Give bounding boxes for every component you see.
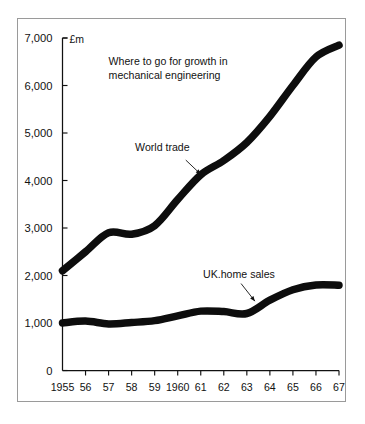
x-tick-label: 61	[195, 381, 207, 393]
y-tick-label: 3,000	[25, 222, 53, 234]
y-tick-label: 7,000	[25, 32, 53, 44]
x-tick-label: 1955	[51, 381, 75, 393]
series-line-2	[63, 285, 340, 324]
x-tick-label: 63	[241, 381, 253, 393]
series-label-2: UK.home sales	[203, 268, 275, 280]
y-tick-label: 0	[46, 365, 52, 377]
series-label-1: World trade	[135, 141, 190, 153]
y-tick-label: 4,000	[25, 175, 53, 187]
x-tick-label: 57	[103, 381, 115, 393]
line-chart: 01,0002,0003,0004,0005,0006,0007,000 195…	[0, 0, 365, 424]
series-lines	[63, 45, 340, 324]
x-axis-tick-labels: 195556575859196061626364656667	[51, 381, 345, 393]
x-tick-label: 64	[264, 381, 276, 393]
chart-title-line-1: Where to go for growth in	[109, 55, 228, 67]
x-tick-label: 1960	[166, 381, 190, 393]
x-tick-label: 59	[149, 381, 161, 393]
y-tick-label: 6,000	[25, 80, 53, 92]
x-tick-label: 65	[287, 381, 299, 393]
y-axis-unit-label: £m	[70, 33, 85, 45]
y-tick-label: 2,000	[25, 270, 53, 282]
x-tick-label: 58	[126, 381, 138, 393]
chart-figure: 01,0002,0003,0004,0005,0006,0007,000 195…	[0, 0, 365, 424]
x-axis-tick-marks	[86, 371, 339, 376]
x-tick-label: 62	[218, 381, 230, 393]
y-tick-label: 5,000	[25, 127, 53, 139]
x-tick-label: 56	[80, 381, 92, 393]
x-tick-label: 66	[310, 381, 322, 393]
y-axis-tick-labels: 01,0002,0003,0004,0005,0006,0007,000	[25, 32, 53, 377]
chart-title-line-2: mechanical engineering	[109, 69, 221, 81]
x-tick-label: 67	[333, 381, 345, 393]
y-tick-label: 1,000	[25, 317, 53, 329]
